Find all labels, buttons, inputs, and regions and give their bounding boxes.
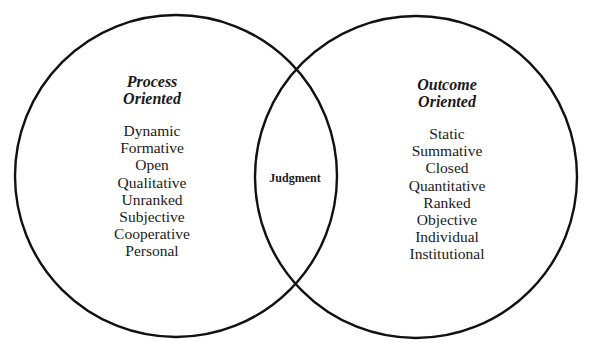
list-item: Individual bbox=[387, 228, 507, 245]
right-title-line2: Oriented bbox=[387, 93, 507, 110]
list-item: Dynamic bbox=[92, 122, 212, 139]
left-set: Process Oriented Dynamic Formative Open … bbox=[92, 73, 212, 260]
list-item: Open bbox=[92, 156, 212, 173]
list-item: Formative bbox=[92, 139, 212, 156]
right-set-title: Outcome Oriented bbox=[387, 76, 507, 110]
list-item: Institutional bbox=[387, 245, 507, 262]
right-set: Outcome Oriented Static Summative Closed… bbox=[387, 76, 507, 263]
list-item: Quantitative bbox=[387, 177, 507, 194]
list-item: Qualitative bbox=[92, 174, 212, 191]
list-item: Unranked bbox=[92, 191, 212, 208]
list-item: Personal bbox=[92, 242, 212, 259]
list-item: Cooperative bbox=[92, 225, 212, 242]
left-title-line2: Oriented bbox=[92, 90, 212, 107]
left-set-items: Dynamic Formative Open Qualitative Unran… bbox=[92, 122, 212, 260]
list-item: Objective bbox=[387, 211, 507, 228]
list-item: Static bbox=[387, 125, 507, 142]
right-title-line1: Outcome bbox=[387, 76, 507, 93]
left-title-line1: Process bbox=[92, 73, 212, 90]
left-set-title: Process Oriented bbox=[92, 73, 212, 107]
list-item: Summative bbox=[387, 142, 507, 159]
intersection-label: Judgment bbox=[269, 171, 320, 186]
list-item: Closed bbox=[387, 159, 507, 176]
list-item: Subjective bbox=[92, 208, 212, 225]
list-item: Ranked bbox=[387, 194, 507, 211]
right-set-items: Static Summative Closed Quantitative Ran… bbox=[387, 125, 507, 263]
